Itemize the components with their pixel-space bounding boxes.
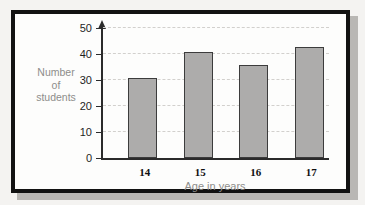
- y-axis-title-line-1: Number: [25, 66, 87, 79]
- y-tick-mark: [96, 158, 103, 159]
- y-tick-label: 40: [80, 48, 92, 60]
- x-tick-label: 14: [139, 166, 150, 178]
- bar: [295, 47, 324, 158]
- y-tick-mark: [96, 28, 103, 29]
- bar-chart: Number of students 01020304050 14151617 …: [15, 14, 346, 189]
- plot-area: 01020304050: [101, 22, 329, 160]
- bar: [128, 78, 157, 158]
- y-axis-title-line-2: of: [25, 79, 87, 92]
- y-tick-label: 10: [80, 126, 92, 138]
- x-tick-label: 17: [306, 166, 317, 178]
- x-axis-line: [101, 158, 329, 160]
- y-tick-mark: [96, 54, 103, 55]
- y-tick-label: 20: [80, 100, 92, 112]
- bar-series: [103, 22, 329, 158]
- y-tick-label: 0: [86, 152, 92, 164]
- bar: [239, 65, 268, 158]
- x-tick-label: 15: [195, 166, 206, 178]
- y-tick-mark: [96, 80, 103, 81]
- x-axis-title: Age in years: [101, 180, 329, 192]
- y-axis-title-line-3: students: [25, 91, 87, 104]
- page-background: Number of students 01020304050 14151617 …: [0, 0, 365, 205]
- y-tick-mark: [96, 132, 103, 133]
- y-tick-mark: [96, 106, 103, 107]
- bar: [184, 52, 213, 158]
- y-tick-label: 30: [80, 74, 92, 86]
- x-axis-tick-labels: 14151617: [103, 162, 331, 178]
- y-tick-label: 50: [80, 22, 92, 34]
- x-tick-label: 16: [250, 166, 261, 178]
- chart-frame: Number of students 01020304050 14151617 …: [11, 10, 350, 193]
- y-axis-title: Number of students: [25, 66, 87, 104]
